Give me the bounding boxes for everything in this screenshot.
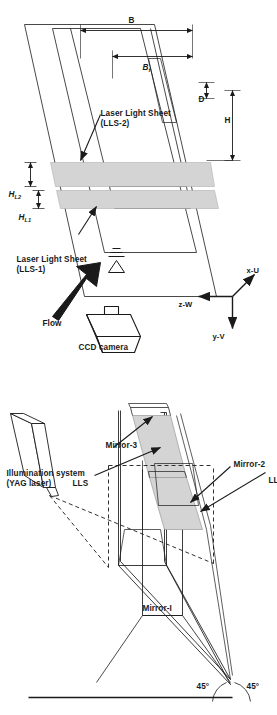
flume-setup-drawing	[0, 0, 277, 358]
yag-laser-aperture	[46, 487, 58, 496]
laser-light-sheet-2	[50, 162, 214, 186]
dimension-label-HL2: HL2	[8, 189, 21, 200]
dim-HL1-main: H	[18, 212, 24, 221]
trough-edge-a	[166, 565, 230, 684]
trough-edge-b	[164, 561, 230, 679]
angle-label-right: 45°	[246, 681, 259, 691]
lls1-label: Laser Light Sheet (LLS-1)	[16, 254, 86, 273]
dim-Bf-sub: f	[148, 67, 150, 73]
mirror-system-drawing	[0, 358, 277, 715]
laser-light-sheet-1	[56, 190, 218, 208]
axis-label-x: x-U	[246, 266, 259, 275]
angle-label-left: 45°	[196, 681, 209, 691]
ccd-camera-lens	[104, 306, 118, 314]
dimension-label-D: D	[198, 94, 204, 104]
mirror-3-plate	[130, 407, 170, 415]
leader-lls-lower	[200, 472, 265, 511]
ccd-camera-label: CCD camera	[78, 342, 128, 352]
axis-label-y: y-V	[212, 332, 224, 341]
flume-outer-bottom-rail	[154, 24, 216, 296]
angle-arc-left	[212, 682, 226, 701]
flow-label: Flow	[42, 318, 61, 328]
panel-flume-setup: CCD camera Flow Laser Light Sheet (LLS-1…	[0, 0, 277, 358]
illumination-label-line1: Illumination system	[6, 468, 84, 477]
mirror-2-label: Mirror-2	[233, 459, 265, 469]
mirror-3-plate-edge	[128, 403, 168, 407]
lls2-label-line2: (LLS-2)	[100, 118, 129, 127]
laser-light-sheet-lower	[149, 477, 202, 529]
illumination-label-line2: (YAG laser)	[6, 478, 51, 487]
inner-edge-top	[96, 565, 118, 682]
inner-v-fold	[96, 615, 230, 682]
mid-divider-link1	[160, 529, 166, 565]
mirror-3-label: Mirror-3	[105, 440, 137, 450]
lls-upper-label: LLS	[72, 478, 88, 488]
trough-edge-d	[120, 561, 230, 679]
dimension-label-B: B	[128, 15, 134, 25]
lls1-label-line2: (LLS-1)	[16, 264, 45, 273]
dimension-label-H: H	[224, 115, 230, 125]
dimension-label-HL1: HL1	[18, 212, 31, 223]
figure-canvas: Illumination system (YAG laser) LLS Mirr…	[0, 0, 277, 715]
dimension-label-Bf: Bf	[142, 62, 150, 73]
lls-lower-label: LLS	[268, 475, 277, 485]
dim-HL2-sub: L2	[14, 194, 21, 200]
dimension-sheet-thickness	[24, 162, 44, 208]
panel-mirror-system: Illumination system (YAG laser) LLS Mirr…	[0, 358, 277, 715]
lls2-label-line1: Laser Light Sheet	[100, 108, 170, 117]
lls1-label-line1: Laser Light Sheet	[16, 254, 86, 263]
axis-label-z: z-W	[178, 300, 192, 309]
dimension-cross-section	[80, 24, 240, 160]
coordinate-axes	[198, 274, 254, 328]
dim-HL1-sub: L1	[24, 217, 31, 223]
trough-edge-c	[118, 565, 230, 684]
water-surface-symbol	[108, 248, 124, 272]
mirror-1-label: Mirror-I	[142, 603, 171, 613]
flume-inner-rail-top	[52, 28, 104, 252]
leader-lls1	[78, 206, 96, 234]
axis-x	[232, 274, 254, 296]
lls2-label: Laser Light Sheet (LLS-2)	[100, 108, 170, 127]
dim-Bf-main: B	[142, 62, 148, 71]
dim-HL2-main: H	[8, 189, 14, 198]
laser-light-sheet-upper	[132, 415, 186, 477]
